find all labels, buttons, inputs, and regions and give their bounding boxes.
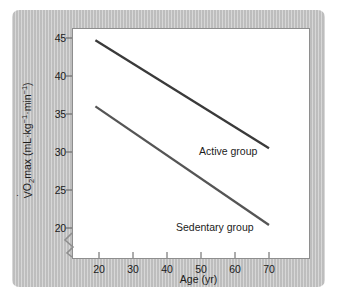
figure-container: 45 40 35 30 25 20 20 30 40 50 60 70 Age …	[0, 0, 337, 305]
series-line-active-group	[95, 40, 269, 148]
y-axis-ticks	[66, 38, 72, 228]
axis-break-zigzag-icon	[65, 233, 73, 257]
x-axis-ticks	[99, 252, 269, 258]
series-line-sedentary-group	[95, 106, 269, 225]
chart-svg	[0, 0, 337, 305]
